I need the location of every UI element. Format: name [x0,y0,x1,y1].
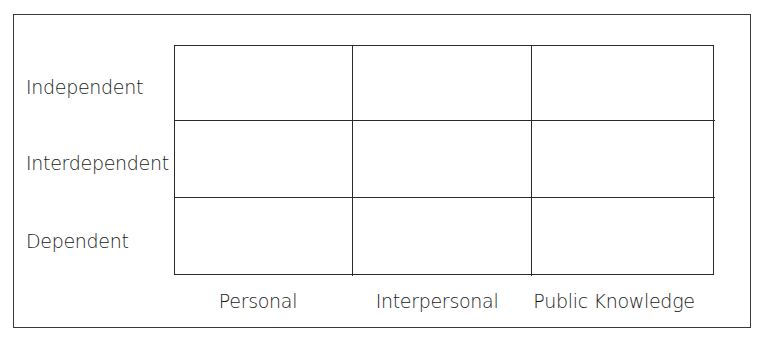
row-label-dependent: Dependent [26,230,129,252]
cell-dependent-public-knowledge [532,198,715,276]
cell-independent-interpersonal [353,46,532,121]
cell-interdependent-personal [175,121,353,198]
matrix-grid [174,45,714,275]
column-label-personal: Personal [219,290,297,312]
column-label-interpersonal: Interpersonal [376,290,499,312]
column-label-public-knowledge: Public Knowledge [533,290,694,312]
cell-interdependent-public-knowledge [532,121,715,198]
cell-dependent-personal [175,198,353,276]
row-label-independent: Independent [26,76,143,98]
cell-independent-public-knowledge [532,46,715,121]
row-label-interdependent: Interdependent [26,152,169,174]
cell-independent-personal [175,46,353,121]
cell-dependent-interpersonal [353,198,532,276]
cell-interdependent-interpersonal [353,121,532,198]
